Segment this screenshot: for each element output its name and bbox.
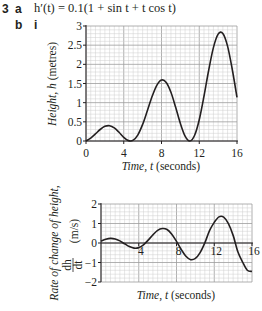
rate-of-change-chart: −2−1012481216Time, t (seconds)Rate of ch…	[48, 185, 260, 302]
y-axis-label: Height, h (metres)	[46, 42, 59, 127]
x-tick-label: 8	[159, 147, 165, 159]
x-tick-label: 16	[231, 147, 243, 159]
y-tick-label: 1	[76, 97, 82, 109]
y-tick-label: 3	[76, 20, 82, 32]
x-axis-label: Time, t (seconds)	[137, 289, 215, 302]
svg-text:dt: dt	[72, 260, 84, 270]
y-axis-label-line1: Rate of change of height,	[48, 185, 61, 301]
y-tick-label: 1	[91, 218, 97, 230]
x-tick-label: 4	[121, 147, 127, 159]
y-axis-label-fraction: dhdt	[61, 258, 84, 272]
y-tick-label: 0	[91, 237, 97, 249]
x-tick-label: 8	[176, 245, 182, 257]
y-tick-label: 0.5	[68, 116, 83, 128]
y-tick-label: 1.5	[68, 78, 83, 90]
y-axis-label-units: (m/s)	[68, 219, 81, 243]
x-tick-label: 16	[248, 245, 260, 257]
height-chart: 00.511.522.530481216Time, t (seconds)Hei…	[46, 20, 243, 173]
x-tick-label: 12	[211, 245, 223, 257]
y-tick-label: −1	[85, 257, 97, 269]
y-tick-label: 0	[76, 135, 82, 147]
y-tick-label: 2.5	[68, 39, 83, 51]
x-tick-label: 0	[83, 147, 89, 159]
y-tick-label: 2	[76, 58, 82, 70]
x-tick-label: 12	[194, 147, 206, 159]
y-tick-label: −2	[85, 276, 97, 288]
y-tick-label: 2	[91, 198, 97, 210]
charts-canvas: 00.511.522.530481216Time, t (seconds)Hei…	[0, 0, 262, 311]
x-axis-label: Time, t (seconds)	[122, 160, 200, 173]
